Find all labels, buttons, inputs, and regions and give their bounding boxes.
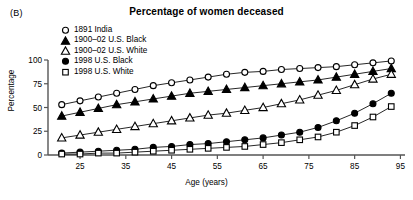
open-square-marker	[242, 144, 248, 150]
open-square-marker	[205, 146, 211, 152]
filled-circle-marker	[333, 118, 339, 124]
filled-circle-marker	[370, 101, 376, 107]
open-circle-marker	[352, 62, 358, 68]
series-line	[62, 61, 392, 105]
x-tick-label: 25	[75, 162, 85, 171]
y-tick-label: 100	[28, 56, 42, 65]
series-2	[58, 70, 396, 141]
filled-circle-marker	[388, 90, 394, 96]
filled-circle-marker	[242, 137, 248, 143]
open-square-marker	[169, 147, 175, 153]
series-layer	[58, 58, 396, 157]
open-square-marker	[114, 150, 120, 156]
open-square-marker	[260, 142, 266, 148]
open-square-marker	[279, 140, 285, 146]
open-circle-marker	[114, 90, 120, 96]
x-tick-label: 65	[259, 162, 269, 171]
open-circle-marker	[132, 86, 138, 92]
y-tick-label: 0	[37, 151, 42, 160]
filled-circle-marker	[297, 129, 303, 135]
x-tick-label: 95	[396, 162, 406, 171]
plot-area: 02550751002535455565758595	[0, 0, 413, 200]
open-circle-marker	[370, 60, 376, 66]
y-tick-label: 75	[33, 80, 43, 89]
open-square-marker	[297, 137, 303, 143]
open-circle-marker	[315, 65, 321, 71]
open-square-marker	[96, 150, 102, 156]
open-square-marker	[352, 123, 358, 129]
figure-panel-b: (B) Percentage of women deceased 1891 In…	[0, 0, 413, 200]
open-circle-marker	[59, 102, 65, 108]
open-circle-marker	[95, 94, 101, 100]
open-square-marker	[224, 145, 230, 151]
open-circle-marker	[260, 68, 266, 74]
open-square-marker	[315, 134, 321, 140]
open-square-marker	[150, 148, 156, 154]
open-circle-marker	[242, 69, 248, 75]
x-tick-label: 85	[350, 162, 360, 171]
open-circle-marker	[169, 80, 175, 86]
y-tick-label: 25	[33, 127, 43, 136]
open-circle-marker	[77, 98, 83, 104]
open-square-marker	[59, 151, 65, 157]
x-tick-label: 55	[213, 162, 223, 171]
y-tick-label: 50	[33, 104, 43, 113]
x-tick-label: 45	[167, 162, 177, 171]
open-square-marker	[77, 151, 83, 157]
series-0	[59, 58, 395, 108]
open-circle-marker	[297, 66, 303, 72]
open-square-marker	[187, 147, 193, 153]
filled-circle-marker	[278, 132, 284, 138]
open-square-marker	[334, 129, 340, 135]
open-circle-marker	[333, 64, 339, 70]
open-circle-marker	[150, 83, 156, 89]
x-tick-label: 75	[304, 162, 314, 171]
filled-circle-marker	[315, 124, 321, 130]
open-square-marker	[132, 149, 138, 155]
open-circle-marker	[224, 71, 230, 77]
open-circle-marker	[205, 74, 211, 80]
filled-circle-marker	[352, 110, 358, 116]
filled-circle-marker	[224, 139, 230, 145]
filled-circle-marker	[260, 135, 266, 141]
x-tick-label: 35	[121, 162, 131, 171]
open-circle-marker	[278, 67, 284, 73]
open-square-marker	[388, 104, 394, 110]
open-circle-marker	[388, 58, 394, 64]
open-square-marker	[370, 114, 376, 120]
open-circle-marker	[187, 77, 193, 83]
